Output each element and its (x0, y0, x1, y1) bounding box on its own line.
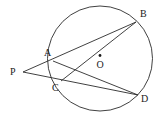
vertex-label-D: D (141, 94, 148, 104)
center-label-O: O (97, 60, 104, 70)
vertex-label-C: C (52, 83, 59, 93)
vertex-label-P: P (10, 67, 16, 77)
center-point-O-dot (99, 54, 102, 57)
vertex-label-B: B (140, 9, 147, 19)
geometry-figure: P A B C D O (0, 0, 163, 118)
secant-P-C-D (23, 72, 138, 95)
vertex-label-A: A (44, 48, 51, 58)
chord-C-B (61, 22, 136, 81)
chord-A-D (53, 61, 138, 95)
secant-P-A-B (23, 22, 136, 72)
diagram-canvas (0, 0, 163, 118)
